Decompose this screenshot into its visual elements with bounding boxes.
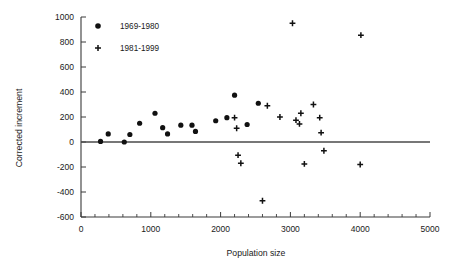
- y-tick-label: 1000: [55, 12, 74, 22]
- data-point-circle: [256, 101, 261, 106]
- data-point-plus: [318, 130, 324, 136]
- y-tick-label: 200: [60, 112, 74, 122]
- data-point-plus: [311, 102, 317, 108]
- data-point-plus: [321, 148, 327, 154]
- data-point-plus: [298, 110, 304, 116]
- data-point-circle: [193, 129, 198, 134]
- data-point-plus: [277, 114, 283, 120]
- data-point-plus: [264, 103, 270, 109]
- data-point-plus: [238, 160, 244, 166]
- y-tick-label: -400: [57, 187, 74, 197]
- legend-marker-plus: [95, 45, 101, 51]
- data-point-circle: [137, 121, 142, 126]
- data-point-circle: [127, 132, 132, 137]
- data-point-circle: [98, 139, 103, 144]
- data-point-plus: [260, 198, 266, 204]
- x-tick-label: 3000: [281, 224, 300, 234]
- x-tick-label: 1000: [141, 224, 160, 234]
- y-axis-label: Corrected increment: [14, 88, 24, 167]
- legend-marker-circle: [95, 23, 101, 29]
- data-point-plus: [301, 161, 307, 167]
- x-tick-label: 5000: [421, 224, 440, 234]
- data-point-circle: [160, 125, 165, 130]
- y-tick-label: 800: [60, 37, 74, 47]
- legend-label: 1969-1980: [120, 22, 160, 31]
- legend-label: 1981-1999: [120, 44, 160, 53]
- y-tick-label: 0: [69, 137, 74, 147]
- data-point-circle: [245, 122, 250, 127]
- data-point-plus: [232, 115, 238, 121]
- data-point-plus: [293, 117, 299, 123]
- x-tick-label: 4000: [351, 224, 370, 234]
- data-point-plus: [357, 162, 363, 168]
- x-tick-label: 0: [79, 224, 84, 234]
- data-point-plus: [235, 152, 241, 158]
- data-point-plus: [297, 121, 303, 127]
- data-point-circle: [224, 115, 229, 120]
- chart-legend: 1969-19801981-1999: [95, 22, 160, 53]
- y-tick-label: -200: [57, 162, 74, 172]
- data-point-circle: [122, 139, 127, 144]
- data-point-circle: [165, 131, 170, 136]
- data-point-plus: [234, 125, 240, 131]
- x-axis-label: Population size: [227, 248, 286, 258]
- chart-canvas: -600-400-2000200400600800100001000200030…: [0, 0, 458, 264]
- data-point-circle: [213, 118, 218, 123]
- data-point-plus: [317, 115, 323, 121]
- data-point-circle: [178, 123, 183, 128]
- data-point-circle: [189, 123, 194, 128]
- y-tick-label: 600: [60, 62, 74, 72]
- data-point-plus: [358, 32, 364, 38]
- data-point-circle: [232, 93, 237, 98]
- scatter-plot-figure: -600-400-2000200400600800100001000200030…: [0, 0, 458, 264]
- y-tick-label: 400: [60, 87, 74, 97]
- y-tick-label: -600: [57, 212, 74, 222]
- data-point-circle: [152, 111, 157, 116]
- data-point-circle: [106, 131, 111, 136]
- data-point-plus: [290, 20, 296, 26]
- x-tick-label: 2000: [211, 224, 230, 234]
